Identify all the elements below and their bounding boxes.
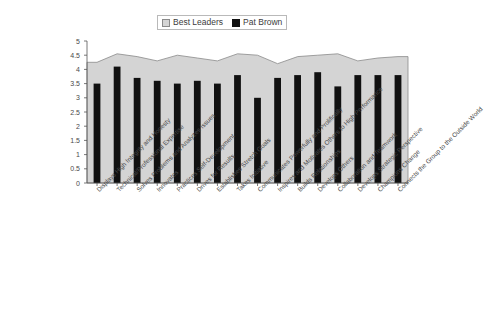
y-tick-label: 3 — [58, 94, 80, 101]
y-tick-label: 0 — [58, 180, 80, 187]
y-tick-label: 4.5 — [58, 52, 80, 59]
y-tick-label: 5 — [58, 38, 80, 45]
y-tick-label: 3.5 — [58, 80, 80, 87]
y-tick-label: 4 — [58, 66, 80, 73]
y-tick-label: 1.5 — [58, 137, 80, 144]
y-tick-label: 2 — [58, 123, 80, 130]
y-tick-label: 0.5 — [58, 165, 80, 172]
y-tick-label: 2.5 — [58, 109, 80, 116]
y-tick-label: 1 — [58, 151, 80, 158]
